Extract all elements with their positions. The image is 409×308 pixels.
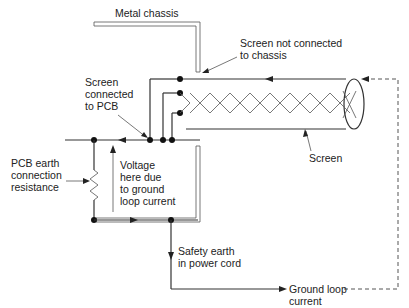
- screened-cable: [181, 76, 364, 129]
- label-metal-chassis: Metal chassis: [115, 7, 179, 19]
- leader-screen-connected: [118, 115, 146, 137]
- leader-screen-not-connected: [205, 57, 237, 72]
- label-safety-earth-1: Safety earth: [178, 245, 235, 257]
- pcb-earth-resistor: [66, 140, 98, 223]
- label-screen-not-connected-1: Screen not connected: [240, 37, 342, 49]
- label-voltage-3: to ground: [120, 183, 165, 195]
- label-pcb-earth-1: PCB earth: [11, 157, 60, 169]
- signal-wires: [163, 90, 190, 140]
- label-screen-not-connected-2: to chassis: [240, 49, 287, 61]
- label-screen-connected-3: to PCB: [85, 100, 118, 112]
- metal-chassis-top: [94, 22, 200, 72]
- label-ground-loop-2: current: [289, 295, 322, 307]
- label-safety-earth-2: in power cord: [178, 257, 241, 269]
- label-ground-loop-1: Ground loop: [289, 283, 347, 295]
- label-voltage-1: Voltage: [120, 159, 155, 171]
- pcb-ground-line: [65, 137, 200, 143]
- label-pcb-earth-2: connection: [11, 169, 62, 181]
- label-screen-connected-2: connected: [85, 88, 134, 100]
- ground-loop-diagram: Metal chassis Screen not connected to ch…: [0, 0, 409, 308]
- label-voltage-4: loop current: [120, 195, 176, 207]
- voltage-arrow: [110, 145, 116, 212]
- label-screen: Screen: [309, 152, 342, 164]
- ground-loop-dashed: [344, 76, 398, 289]
- screen-wire: [150, 76, 183, 140]
- label-voltage-2: here due: [120, 171, 162, 183]
- label-pcb-earth-3: resistance: [11, 181, 59, 193]
- label-screen-connected-1: Screen: [85, 76, 118, 88]
